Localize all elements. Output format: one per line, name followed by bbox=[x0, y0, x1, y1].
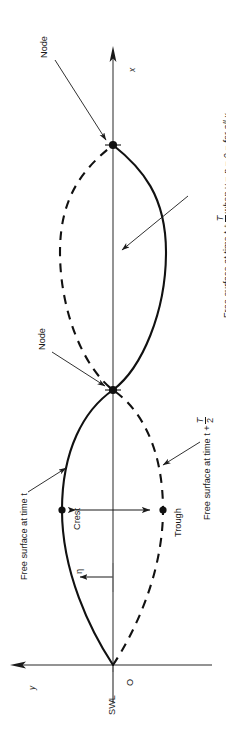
node-lower-label: Node bbox=[38, 328, 47, 350]
free-surface-quarter-condition: when y = η = 0 = for all x bbox=[222, 113, 226, 213]
node-upper-label: Node bbox=[40, 36, 49, 58]
node-lower-leader bbox=[52, 352, 105, 386]
free-surface-half-leader bbox=[163, 442, 200, 465]
eta-label: η bbox=[75, 569, 84, 574]
free-surface-quarter-leader bbox=[122, 196, 188, 250]
free-surface-half-text: Free surface at time t + bbox=[202, 425, 212, 520]
trough-marker bbox=[159, 506, 166, 513]
standing-wave-figure: x y O SWL Node Node Crest Trough η Free … bbox=[0, 0, 226, 730]
fraction-denominator-2: 2 bbox=[206, 417, 215, 425]
crest-marker bbox=[58, 506, 65, 513]
figure-canvas bbox=[0, 0, 226, 730]
free-surface-time-t-label: Free surface at time t bbox=[20, 493, 29, 580]
free-surface-quarter-label: Free surface at time t +T4when y = η = 0… bbox=[216, 113, 226, 318]
fraction-T-over-4: T4 bbox=[216, 215, 226, 223]
free-surface-half-label: Free surface at time t +T2 bbox=[196, 416, 216, 520]
origin-label: O bbox=[126, 679, 135, 686]
node-upper-leader bbox=[55, 60, 106, 140]
free-surface-quarter-text: Free surface at time t + bbox=[222, 223, 226, 318]
trough-label: Trough bbox=[174, 508, 183, 537]
crest-label: Crest bbox=[73, 508, 82, 530]
y-axis-label: y bbox=[28, 686, 36, 690]
swl-label: SWL bbox=[108, 695, 117, 715]
x-axis-label: x bbox=[128, 68, 136, 72]
fraction-T-over-2: T2 bbox=[196, 417, 216, 425]
free-surface-t-leader bbox=[28, 468, 66, 492]
